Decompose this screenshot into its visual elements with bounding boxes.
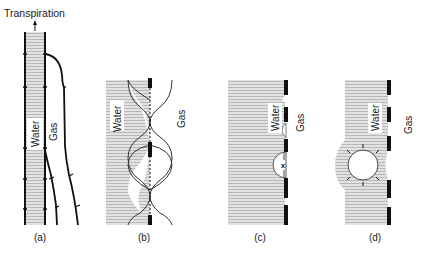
panel-b: Water Gas (b) [106, 78, 187, 243]
panel-a: Transpiration [4, 7, 80, 243]
transpiration-label: Transpiration [4, 7, 65, 19]
cavitation-bubble [348, 150, 378, 180]
gas-label-a: Gas [48, 123, 59, 141]
gas-label-d: Gas [403, 116, 414, 134]
panel-c: x Water Gas (c) [228, 80, 306, 243]
water-label-c: Water [270, 104, 281, 131]
water-label-a: Water [30, 120, 41, 147]
gas-label-b: Gas [176, 110, 187, 128]
gas-conduit-inner-wall [45, 150, 57, 225]
caption-a: (a) [34, 232, 46, 243]
gas-label-c: Gas [295, 114, 306, 132]
wall-segment [148, 142, 152, 157]
transpiration-arrow-icon [33, 20, 37, 31]
panel-d: Water Gas (d) [335, 80, 414, 243]
water-label-d: Water [370, 104, 381, 131]
water-label-b: Water [112, 105, 123, 132]
wall-segment [148, 215, 152, 225]
water-region-c [228, 80, 285, 225]
wall-segment [148, 78, 152, 88]
caption-b: (b) [138, 232, 150, 243]
cavitation-diagram: Transpiration [0, 0, 421, 253]
x-mark-icon: x [281, 161, 286, 170]
caption-d: (d) [369, 232, 381, 243]
caption-c: (c) [254, 232, 266, 243]
